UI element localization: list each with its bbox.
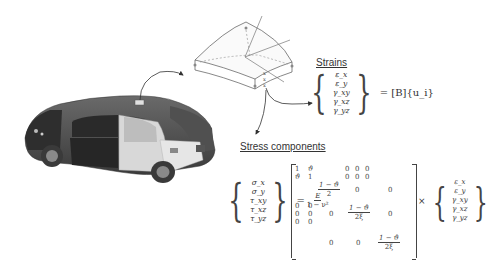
stress-rhs: × { ε_x ε_y γ_xy γ_xz γ_yz } — [418, 178, 490, 223]
fraction-num: 1 − ϑ — [318, 181, 340, 190]
times-sign: × — [418, 196, 426, 206]
vector-entry: ε_y — [454, 187, 465, 196]
svg-text:x: x — [263, 82, 266, 88]
matrix-cell: 0 — [345, 173, 349, 181]
matrix-cell: 0 — [308, 218, 312, 226]
vector-entry: γ_xz — [452, 205, 467, 214]
car-to-element-arrow — [140, 71, 183, 100]
fraction-den: 2ξ — [385, 243, 393, 251]
matrix-cell: 0 — [365, 165, 369, 173]
matrix-fraction: 1 − ϑ 2ξ — [348, 204, 370, 221]
car-model — [25, 96, 215, 183]
vector-entry: γ_yz — [452, 214, 467, 223]
matrix-cell: 0 — [308, 210, 312, 218]
constitutive-matrix: 1 ϑ 0 0 0 ϑ 1 0 0 0 1 − ϑ 2 0 0 0 0 0 0 … — [291, 164, 417, 258]
matrix-cell: 0 — [329, 239, 333, 247]
vector-entry: γ_xy — [452, 196, 468, 205]
matrix-cell: 0 — [355, 173, 359, 181]
vector-entry: τ_yz — [250, 214, 266, 223]
matrix-cell: 0 — [388, 210, 392, 218]
matrix-cell: 1 — [308, 173, 312, 181]
right-brace: } — [356, 71, 371, 115]
matrix-cell: 0 — [388, 186, 392, 194]
matrix-cell: 1 — [295, 165, 299, 173]
vector-entry: σ_x — [252, 178, 265, 187]
matrix-cell: 0 — [356, 239, 360, 247]
matrix-cell: 0 — [355, 186, 359, 194]
vector-entry: ε_y — [335, 79, 347, 88]
matrix-cell: 0 — [345, 165, 349, 173]
stress-vector: σ_x σ_y τ_xy τ_xz τ_yz — [250, 178, 266, 223]
fraction-num: 1 − ϑ — [378, 234, 400, 243]
right-brace: } — [473, 179, 487, 223]
element-to-stress-arrow — [256, 90, 266, 134]
matrix-cell: 0 — [295, 210, 299, 218]
strains-equation: { ε_x ε_y γ_xy γ_xz γ_yz } = [B]{u_i} — [305, 70, 434, 115]
fraction-den: 2 — [327, 190, 331, 198]
matrix-cell: ϑ — [295, 173, 300, 181]
vector-entry: ε_x — [454, 178, 465, 187]
matrix-cell: 0 — [295, 202, 299, 210]
left-brace: { — [228, 179, 243, 223]
left-brace: { — [432, 179, 446, 223]
stress-heading: Stress components — [240, 141, 326, 152]
shell-element: x x x — [194, 16, 294, 89]
strain-vector: ε_x ε_y γ_xy γ_xz γ_yz — [333, 70, 350, 115]
left-brace: { — [311, 71, 326, 115]
vector-entry: τ_xz — [250, 205, 266, 214]
matrix-cell: 0 — [295, 218, 299, 226]
vector-entry: γ_xz — [333, 97, 349, 106]
matrix-cell: 0 — [355, 165, 359, 173]
vector-entry: γ_yz — [333, 106, 349, 115]
fraction-den: 2ξ — [355, 213, 363, 221]
matrix-fraction: 1 − ϑ 2ξ — [378, 234, 400, 251]
vector-entry: γ_xy — [333, 88, 350, 97]
vector-entry: σ_y — [252, 187, 265, 196]
strain-rhs: = [B]{u_i} — [380, 87, 434, 98]
vector-entry: ε_x — [335, 70, 347, 79]
fraction-num: 1 − ϑ — [348, 204, 370, 213]
matrix-fraction: 1 − ϑ 2 — [318, 181, 340, 198]
matrix-cell: 0 — [308, 202, 312, 210]
matrix-cell: 0 — [365, 173, 369, 181]
matrix-cell: ϑ — [308, 165, 313, 173]
strain-vector-rhs: ε_x ε_y γ_xy γ_xz γ_yz — [452, 178, 468, 223]
right-brace: } — [273, 179, 288, 223]
vector-entry: τ_xy — [250, 196, 266, 205]
matrix-cell: 0 — [329, 210, 333, 218]
